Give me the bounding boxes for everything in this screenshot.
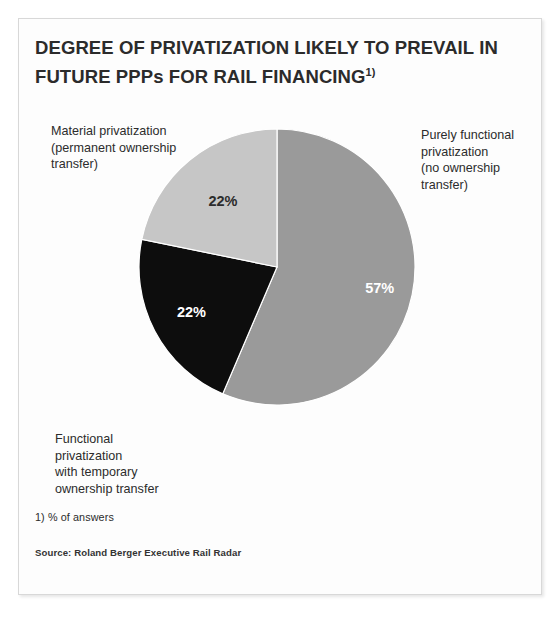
pie-label-group: 57%22%22%: [177, 193, 394, 320]
title-line-2-text: FUTURE PPPs FOR RAIL FINANCING: [35, 66, 366, 87]
pie-value-purely-functional: 57%: [365, 280, 394, 296]
chart-frame: DEGREE OF PRIVATIZATION LIKELY TO PREVAI…: [18, 18, 542, 595]
page-title: DEGREE OF PRIVATIZATION LIKELY TO PREVAI…: [35, 35, 515, 89]
pie-slice-functional-temporary[interactable]: [139, 239, 277, 394]
pie-slice-purely-functional[interactable]: [223, 129, 415, 405]
title-superscript: 1): [366, 66, 376, 78]
callout-purely-functional-privatization: Purely functional privatization (no owne…: [421, 127, 556, 193]
slide-canvas: DEGREE OF PRIVATIZATION LIKELY TO PREVAI…: [0, 0, 557, 620]
pie-value-functional-temporary: 22%: [177, 304, 206, 320]
callout-material-privatization: Material privatization (permanent owners…: [51, 123, 251, 173]
pie-chart: 57%22%22%: [19, 19, 543, 596]
footnote: 1) % of answers: [35, 511, 114, 523]
title-line-2: FUTURE PPPs FOR RAIL FINANCING1): [35, 60, 515, 89]
title-line-1: DEGREE OF PRIVATIZATION LIKELY TO PREVAI…: [35, 35, 515, 60]
pie-value-material: 22%: [208, 193, 237, 209]
callout-functional-privatization: Functional privatization with temporary …: [55, 431, 225, 497]
source-line: Source: Roland Berger Executive Rail Rad…: [35, 547, 241, 558]
